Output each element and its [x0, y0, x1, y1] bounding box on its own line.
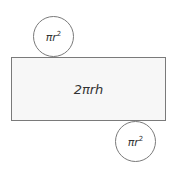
lateral-surface-rectangle: 2πrh — [11, 57, 166, 121]
top-base-circle: πr2 — [33, 16, 74, 57]
bottom-circle-label: πr2 — [128, 135, 144, 149]
rectangle-label: 2πrh — [74, 82, 104, 97]
top-circle-label-exponent: 2 — [57, 30, 61, 38]
bottom-circle-label-base: πr — [128, 136, 139, 149]
bottom-base-circle: πr2 — [115, 121, 156, 162]
bottom-circle-label-exponent: 2 — [139, 135, 143, 143]
top-circle-label-base: πr — [46, 31, 57, 44]
top-circle-label: πr2 — [46, 30, 62, 44]
